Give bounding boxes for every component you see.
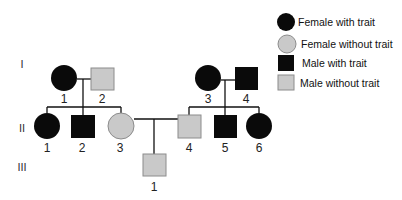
individual-II-3-number: 3 xyxy=(117,141,124,155)
legend-male-affected-icon xyxy=(278,55,294,71)
individual-II-4-unaffected-male xyxy=(178,115,201,138)
individual-I-2-unaffected-male xyxy=(91,68,114,90)
individual-II-2-affected-male xyxy=(71,115,95,138)
individual-I-2-number: 2 xyxy=(99,92,106,106)
individual-II-6-affected-female xyxy=(246,113,272,139)
generation-label-II: II xyxy=(19,122,25,134)
individual-II-5-affected-male xyxy=(214,115,237,138)
individual-III-1-number: 1 xyxy=(151,180,158,194)
legend-label-male-with-trait: Male with trait xyxy=(302,57,367,69)
legend-male-unaffected-icon xyxy=(278,75,294,90)
individual-I-1-number: 1 xyxy=(61,92,68,106)
individual-II-4-number: 4 xyxy=(186,141,193,155)
individual-I-3-number: 3 xyxy=(205,92,212,106)
generation-label-I: I xyxy=(20,58,23,70)
individual-II-6-number: 6 xyxy=(256,141,263,155)
legend-female-unaffected-icon xyxy=(278,35,296,53)
individual-I-1-affected-female xyxy=(51,65,77,91)
individual-II-1-number: 1 xyxy=(44,141,51,155)
individual-II-5-number: 5 xyxy=(222,141,229,155)
individual-II-1-affected-female xyxy=(34,113,60,139)
individual-III-1-unaffected-male xyxy=(143,154,166,176)
legend-label-male-without-trait: Male without trait xyxy=(300,77,379,89)
pedigree-chart: I II III 1 2 3 4 1 2 3 4 5 6 xyxy=(0,0,402,200)
individual-II-2-number: 2 xyxy=(79,141,86,155)
generation-label-III: III xyxy=(17,161,26,173)
legend: Female with trait Female without trait M… xyxy=(277,13,393,90)
legend-female-affected-icon xyxy=(277,13,295,31)
legend-label-female-with-trait: Female with trait xyxy=(298,16,375,28)
legend-label-female-without-trait: Female without trait xyxy=(301,38,393,50)
individual-I-4-number: 4 xyxy=(243,92,250,106)
individual-I-4-affected-male xyxy=(235,67,258,90)
individual-II-3-unaffected-female xyxy=(108,113,134,139)
family-3-lines xyxy=(134,119,178,154)
individual-I-3-affected-female xyxy=(195,65,221,91)
